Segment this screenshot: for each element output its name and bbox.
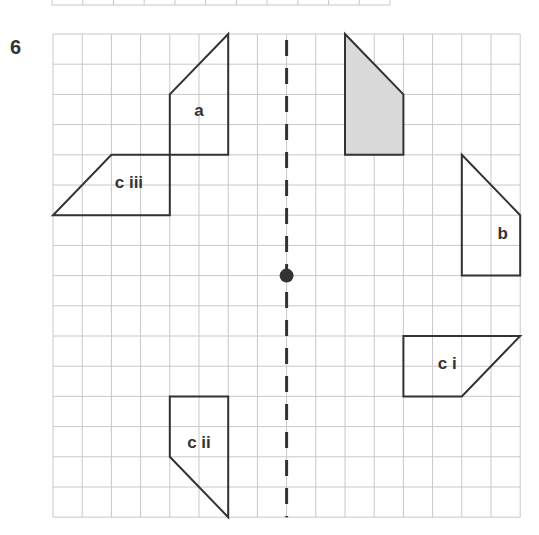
shape-label-b: b: [497, 224, 507, 243]
shape-label-c-ii: c ii: [187, 433, 211, 452]
shape-label-c-iii: c iii: [115, 173, 143, 192]
reflection-diagram: ac iiibc ic ii: [0, 0, 539, 535]
centre-point-dot: [280, 269, 294, 283]
shape-label-c-i: c i: [438, 354, 457, 373]
shape-label-a: a: [194, 101, 204, 120]
